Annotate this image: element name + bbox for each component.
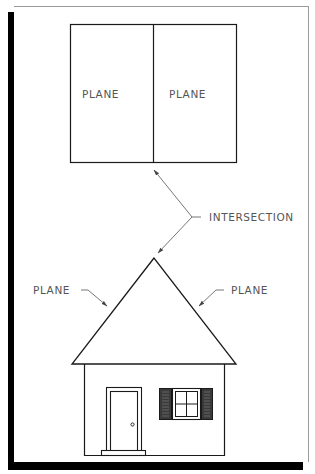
roof-icon (72, 258, 236, 364)
diagram-canvas: PLANE PLANE INTERSECTION PLANE PLANE (0, 0, 315, 474)
intersection-callout: INTERSECTION (154, 170, 294, 253)
diagram-stage: PLANE PLANE INTERSECTION PLANE PLANE (0, 0, 315, 474)
door-icon (111, 392, 138, 452)
house-figure (72, 258, 236, 456)
left-plane-label: PLANE (82, 88, 119, 100)
intersection-label: INTERSECTION (209, 211, 294, 223)
left-roof-plane-label: PLANE (33, 284, 70, 296)
leader-arrow-up-icon (154, 170, 192, 217)
right-roof-leader-arrow-icon (199, 290, 224, 306)
left-roof-leader-arrow-icon (81, 290, 107, 306)
leader-arrow-down-icon (158, 217, 192, 253)
door-step (102, 451, 146, 456)
right-plane-label: PLANE (169, 88, 206, 100)
right-roof-plane-label: PLANE (231, 284, 268, 296)
top-planes-figure: PLANE PLANE (71, 25, 237, 163)
